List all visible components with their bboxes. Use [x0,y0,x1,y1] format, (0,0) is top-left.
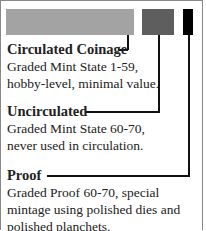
uncirculated-desc-line-1: Graded Mint State 60-70, [7,120,145,137]
proof-connector-horizontal [47,175,190,177]
circulated-desc-line-2: hobby-level, minimal value. [7,75,159,92]
uncirculated-connector-horizontal [85,111,160,113]
proof-title: Proof [7,167,41,184]
circulated-bar [6,9,134,35]
circulated-desc-line-1: Graded Mint State 1-59, [7,58,138,75]
circulated-connector-vertical [127,35,129,50]
uncirculated-desc-line-2: never used in circulation. [7,137,143,154]
circulated-title: Circulated Coinage [7,41,127,58]
uncirculated-connector-vertical [158,35,160,112]
proof-desc-line-1: Graded Proof 60-70, special [7,184,159,201]
proof-desc-line-2: mintage using polished dies and [7,201,180,218]
proof-desc-line-3: polished planchets. [7,218,110,231]
proof-connector-vertical [188,35,190,176]
proof-bar [183,9,193,35]
coin-grade-diagram: Circulated Coinage Graded Mint State 1-5… [0,0,206,231]
uncirculated-title: Uncirculated [7,103,87,120]
uncirculated-bar [142,9,174,35]
